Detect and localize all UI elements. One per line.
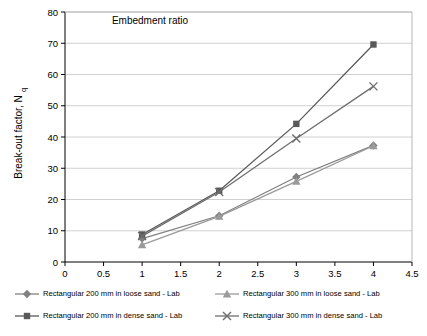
legend-diamond-icon — [14, 288, 40, 300]
svg-text:2: 2 — [217, 268, 222, 279]
chart-container: 0102030405060708000.511.522.533.544.5Emb… — [0, 0, 427, 336]
svg-text:60: 60 — [47, 69, 58, 80]
svg-text:3.5: 3.5 — [328, 268, 341, 279]
svg-text:20: 20 — [47, 194, 58, 205]
svg-text:50: 50 — [47, 100, 58, 111]
legend-item: Rectangular 300 mm in loose sand - Lab — [214, 283, 414, 305]
legend-cross-icon — [214, 310, 240, 322]
legend-label: Rectangular 200 mm in dense sand - Lab — [43, 311, 182, 321]
legend-item: Rectangular 300 mm in dense sand - Lab — [214, 305, 414, 327]
svg-text:0: 0 — [62, 268, 67, 279]
svg-text:Break-out factor, N: Break-out factor, N — [13, 95, 24, 178]
legend-label: Rectangular 200 mm in loose sand - Lab — [43, 289, 180, 299]
svg-text:80: 80 — [47, 7, 58, 18]
svg-text:10: 10 — [47, 225, 58, 236]
svg-text:2.5: 2.5 — [251, 268, 264, 279]
svg-text:4.5: 4.5 — [405, 268, 418, 279]
legend-item: Rectangular 200 mm in loose sand - Lab — [14, 283, 214, 305]
svg-text:q: q — [19, 88, 28, 92]
legend-triangle-icon — [214, 288, 240, 300]
svg-text:3: 3 — [294, 268, 299, 279]
legend-item: Rectangular 200 mm in dense sand - Lab — [14, 305, 214, 327]
svg-text:30: 30 — [47, 163, 58, 174]
legend-label: Rectangular 300 mm in dense sand - Lab — [243, 311, 382, 321]
svg-text:0: 0 — [53, 257, 58, 268]
legend-label: Rectangular 300 mm in loose sand - Lab — [243, 289, 380, 299]
svg-text:1: 1 — [139, 268, 144, 279]
legend-square-icon — [14, 310, 40, 322]
svg-text:4: 4 — [371, 268, 376, 279]
svg-text:40: 40 — [47, 132, 58, 143]
svg-text:70: 70 — [47, 38, 58, 49]
svg-text:1.5: 1.5 — [174, 268, 187, 279]
svg-text:Embedment ratio: Embedment ratio — [112, 15, 189, 26]
svg-text:0.5: 0.5 — [97, 268, 110, 279]
chart-legend: Rectangular 200 mm in loose sand - LabRe… — [14, 283, 414, 327]
